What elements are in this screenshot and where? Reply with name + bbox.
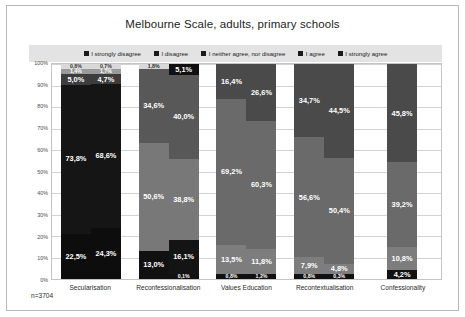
legend-label: I strongly disagree: [91, 50, 141, 57]
legend-item[interactable]: I neither agree, nor disagree: [201, 50, 285, 57]
bar-segment-label: 13,5%: [221, 256, 242, 263]
bar-segment[interactable]: 1,2%: [246, 274, 276, 279]
y-axis-tick-label: 80%: [37, 103, 48, 109]
legend-item[interactable]: I strongly disagree: [84, 50, 141, 57]
gridline: [52, 279, 441, 280]
bar-segment[interactable]: 60,3%: [246, 121, 276, 249]
bar-segment-label: 0,3%: [333, 274, 345, 279]
bar-segment[interactable]: 68,6%: [91, 84, 121, 228]
bar-segment-label: 1,2%: [256, 274, 268, 279]
legend-swatch-icon: [338, 51, 343, 56]
legend-label: I disagree: [161, 50, 188, 57]
bar-segment[interactable]: 22,5%: [61, 234, 91, 279]
bar-group: 34,7%56,6%7,9%0,8%44,5%50,4%4,8%0,3%: [285, 64, 363, 279]
bar-segment[interactable]: 16,1%: [169, 240, 199, 274]
bar-segment[interactable]: 0,8%: [216, 274, 246, 279]
stacked-bar[interactable]: 16,4%69,2%13,5%0,8%: [216, 64, 246, 279]
plot-canvas: 0,8%1,4%5,0%73,8%22,5%0,7%1,7%4,7%68,6%2…: [51, 63, 442, 280]
bar-segment[interactable]: 4,2%: [387, 270, 417, 279]
stacked-bar[interactable]: 44,5%50,4%4,8%0,3%: [324, 64, 354, 279]
stacked-bar[interactable]: 34,7%56,6%7,9%0,8%: [294, 64, 324, 279]
bar-segment-label: 38,8%: [173, 196, 194, 203]
bar-segment[interactable]: 13,5%: [216, 245, 246, 274]
bar-segment[interactable]: 40,0%: [169, 75, 199, 159]
bar-segment[interactable]: 5,0%: [61, 74, 91, 84]
y-axis: 0%10%20%30%40%50%60%70%80%90%100%: [29, 63, 50, 280]
y-axis-tick-label: 10%: [37, 255, 48, 261]
legend-swatch-icon: [154, 51, 159, 56]
bar-segment[interactable]: 16,4%: [216, 64, 246, 99]
y-axis-tick-label: 30%: [37, 212, 48, 218]
bar-segment-label: 24,3%: [95, 250, 116, 257]
bar-segment-label: 40,0%: [173, 113, 194, 120]
bar-segment[interactable]: 0,1%: [169, 274, 199, 279]
bar-segment[interactable]: 50,6%: [139, 143, 169, 251]
bar-segment[interactable]: 5,1%: [169, 64, 199, 75]
stacked-bar[interactable]: 45,8%39,2%10,8%4,2%: [387, 64, 417, 279]
bar-segment-label: 56,6%: [299, 194, 320, 201]
legend-swatch-icon: [298, 51, 303, 56]
bar-segment[interactable]: 0,3%: [324, 274, 354, 279]
bar-segment[interactable]: 24,3%: [91, 228, 121, 279]
y-axis-tick-label: 90%: [37, 82, 48, 88]
bar-group: 16,4%69,2%13,5%0,8%26,6%60,3%11,8%1,2%: [208, 64, 286, 279]
bar-segment[interactable]: 34,6%: [139, 69, 169, 143]
y-axis-tick-label: 50%: [37, 169, 48, 175]
legend-item[interactable]: I disagree: [154, 50, 188, 57]
bar-segment[interactable]: 50,4%: [324, 158, 354, 264]
bar-segment[interactable]: 39,2%: [387, 162, 417, 246]
bar-segment-label: 44,5%: [329, 107, 350, 114]
chart-legend: I strongly disagreeI disagreeI neither a…: [29, 45, 442, 62]
bar-segment-label: 0,8%: [303, 274, 315, 279]
stacked-bar[interactable]: 26,6%60,3%11,8%1,2%: [246, 64, 276, 279]
bar-segment-label: 16,1%: [173, 253, 194, 260]
bar-segment[interactable]: 69,2%: [216, 99, 246, 246]
legend-label: I neither agree, nor disagree: [209, 50, 286, 57]
bar-segment[interactable]: 0,8%: [294, 274, 324, 279]
bar-segment-label: 5,1%: [175, 66, 192, 73]
bar-segment-label: 4,2%: [394, 271, 411, 278]
x-axis-category-label: Reconfessionalisation: [136, 284, 200, 291]
bar-segment[interactable]: 26,6%: [246, 64, 276, 121]
y-axis-tick-label: 40%: [37, 190, 48, 196]
bar-segment[interactable]: 45,8%: [387, 64, 417, 162]
bar-segment[interactable]: 56,6%: [294, 137, 324, 257]
legend-item[interactable]: I strongly agree: [338, 50, 388, 57]
bar-segment[interactable]: 13,0%: [139, 251, 169, 279]
y-axis-tick-label: 0%: [40, 277, 48, 283]
bar-segment-label: 4,7%: [97, 76, 114, 83]
bar-segment-label: 7,9%: [301, 262, 318, 269]
bar-segment-label: 5,0%: [67, 76, 84, 83]
x-axis: SecularisationReconfessionalisationValue…: [29, 284, 442, 298]
stacked-bar[interactable]: 0,7%1,7%4,7%68,6%24,3%: [91, 64, 121, 279]
bar-group: 1,8%34,6%50,6%13,0%5,1%40,0%38,8%16,1%0,…: [130, 64, 208, 279]
bar-segment-label: 4,8%: [331, 265, 348, 272]
bar-segment[interactable]: 11,8%: [246, 249, 276, 274]
bar-segment-label: 45,8%: [392, 110, 413, 117]
bar-segment[interactable]: 44,5%: [324, 64, 354, 158]
bar-segment-label: 34,6%: [143, 102, 164, 109]
y-axis-tick-label: 60%: [37, 147, 48, 153]
bar-segment-label: 69,2%: [221, 168, 242, 175]
legend-label: I strongly agree: [345, 50, 387, 57]
bar-segment[interactable]: 34,7%: [294, 64, 324, 137]
bar-group: 45,8%39,2%10,8%4,2%: [363, 64, 441, 279]
bar-segment[interactable]: 10,8%: [387, 247, 417, 270]
bar-segment[interactable]: 4,7%: [91, 74, 121, 84]
bar-segment[interactable]: 73,8%: [61, 85, 91, 234]
page-title: Melbourne Scale, adults, primary schools: [7, 18, 458, 30]
bar-segment-label: 68,6%: [95, 152, 116, 159]
bar-segment-label: 11,8%: [251, 258, 272, 265]
bar-series-container: 0,8%1,4%5,0%73,8%22,5%0,7%1,7%4,7%68,6%2…: [52, 64, 441, 279]
bar-segment[interactable]: 38,8%: [169, 159, 199, 240]
bar-group: 0,8%1,4%5,0%73,8%22,5%0,7%1,7%4,7%68,6%2…: [52, 64, 130, 279]
x-axis-category-label: Secularisation: [69, 284, 110, 291]
stacked-bar[interactable]: 0,8%1,4%5,0%73,8%22,5%: [61, 64, 91, 279]
plot-area: 0%10%20%30%40%50%60%70%80%90%100% 0,8%1,…: [29, 63, 442, 280]
y-axis-tick-label: 20%: [37, 234, 48, 240]
bar-segment-label: 0,8%: [226, 274, 238, 279]
stacked-bar[interactable]: 1,8%34,6%50,6%13,0%: [139, 64, 169, 279]
stacked-bar[interactable]: 5,1%40,0%38,8%16,1%0,1%: [169, 64, 199, 279]
legend-item[interactable]: I agree: [298, 50, 324, 57]
bar-segment[interactable]: 7,9%: [294, 257, 324, 274]
